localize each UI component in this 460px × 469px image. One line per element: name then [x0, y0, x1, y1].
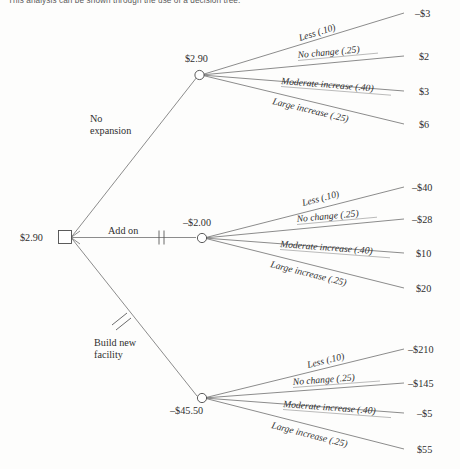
payoff-1-no-change: $2 — [419, 51, 429, 62]
alternative-label-build-new-facility-line1: Build new — [94, 337, 137, 348]
payoff-3-less: –$210 — [407, 344, 433, 355]
payoff-3-moderate: –$5 — [416, 408, 432, 419]
alternative-label-add-on: Add on — [108, 225, 138, 236]
outcome-label-2-moderate: Moderate increase (.40) — [279, 238, 373, 257]
outcome-label-1-no-change: No change (.25) — [296, 43, 360, 61]
alternative-label-build-new-facility-line2: facility — [94, 349, 124, 360]
payoff-1-moderate: $3 — [419, 86, 429, 97]
outcome-label-1-less: Less (.10) — [296, 21, 337, 44]
payoff-3-large: $55 — [417, 444, 432, 455]
decision-node-root[interactable] — [59, 231, 72, 244]
branch-line-no-expansion — [71, 77, 197, 238]
outcome-label-2-less: Less (.10) — [300, 188, 341, 209]
payoff-2-no-change: –$28 — [411, 214, 432, 225]
chance-node-no-expansion[interactable] — [195, 70, 204, 79]
payoff-3-no-change: –$145 — [407, 378, 433, 389]
payoff-1-less: –$3 — [414, 8, 430, 19]
outcome-label-3-moderate: Moderate increase (.40) — [282, 398, 376, 417]
alternative-label-no-expansion-line2: expansion — [90, 125, 131, 136]
chance-node-value-no-expansion: $2.90 — [185, 53, 208, 64]
prune-mark-build-new-facility — [112, 313, 131, 330]
outcome-label-3-large: Large increase (.25) — [269, 419, 348, 450]
outcome-label-1-large: Large increase (.25) — [270, 95, 350, 125]
decision-tree-figure: This analysis can be shown through the u… — [0, 0, 460, 469]
chance-node-value-add-on: –$2.00 — [182, 217, 211, 228]
branch-line-build-new-facility — [71, 238, 197, 397]
payoff-2-less: –$40 — [411, 182, 432, 193]
outcome-labels-build-new-facility: Less (.10) No change (.25) Moderate incr… — [269, 350, 391, 450]
payoff-2-large: $20 — [416, 283, 431, 294]
decision-tree-svg: No expansion Add on Build new facility $… — [0, 0, 460, 469]
payoff-1-large: $6 — [419, 119, 429, 130]
chance-node-build-new-facility[interactable] — [197, 393, 206, 402]
outcome-labels-add-on: Less (.10) No change (.25) Moderate incr… — [268, 188, 390, 289]
outcome-label-2-no-change: No change (.25) — [295, 207, 359, 225]
outcome-labels-no-expansion: Less (.10) No change (.25) Moderate incr… — [270, 21, 391, 125]
root-node-value: $2.90 — [20, 232, 43, 243]
outcome-label-1-moderate: Moderate increase (.40) — [280, 75, 374, 94]
chance-node-add-on[interactable] — [197, 233, 206, 242]
chance-node-value-build-new-facility: –$45.50 — [169, 405, 203, 416]
outcome-label-2-large: Large increase (.25) — [268, 258, 347, 289]
alternative-label-no-expansion-line1: No — [90, 113, 102, 124]
payoff-2-moderate: $10 — [416, 248, 431, 259]
